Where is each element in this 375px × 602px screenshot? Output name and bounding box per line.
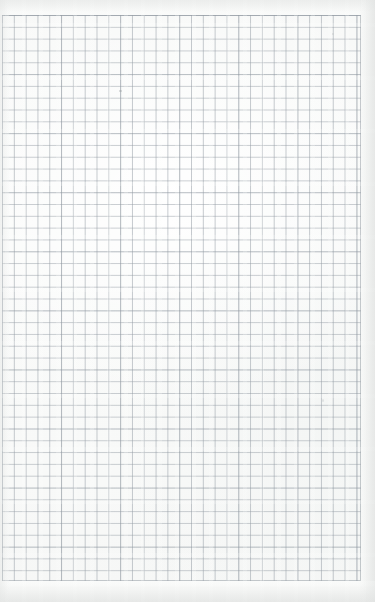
grid-border-rule [2, 15, 361, 581]
graph-paper-page: Blank square-ruled (graph) paper sheet, … [0, 0, 375, 602]
grid-ruling-area [2, 15, 361, 581]
grid-major-lines [2, 15, 361, 581]
